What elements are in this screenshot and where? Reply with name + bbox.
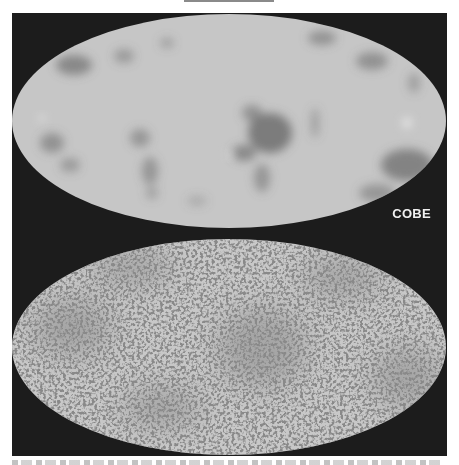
cobe-sky-map: COBE — [12, 13, 447, 229]
cropped-top-text — [184, 0, 274, 2]
cropped-caption-text — [12, 460, 442, 465]
cobe-label: COBE — [392, 206, 431, 221]
wmap-sky-map: WMAP — [12, 238, 447, 456]
figure-panel: COBE WMAP — [12, 13, 447, 456]
